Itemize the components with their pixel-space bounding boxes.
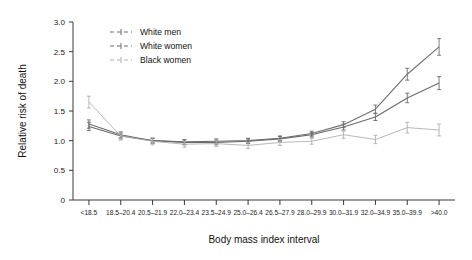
x-tick-label: 25.0–26.4 xyxy=(233,209,263,216)
line-chart-canvas: 00.51.01.52.02.53.0 Relative risk of dea… xyxy=(0,0,472,260)
y-tick-label: 1.5 xyxy=(54,107,66,116)
legend-label: White men xyxy=(140,27,181,37)
y-axis-ticks xyxy=(69,22,73,200)
y-tick-label: 0.5 xyxy=(54,166,66,175)
y-tick-label: 3.0 xyxy=(54,18,66,27)
legend-label: Black women xyxy=(140,55,191,65)
chart-legend: White menWhite womenBlack women xyxy=(110,27,192,65)
legend-item: Black women xyxy=(110,55,191,65)
x-axis-ticks xyxy=(89,200,439,205)
x-tick-label: 22.0–23.4 xyxy=(170,209,200,216)
chart-figure: 00.51.01.52.02.53.0 Relative risk of dea… xyxy=(0,0,472,260)
x-tick-label: 30.0–31.9 xyxy=(329,209,359,216)
legend-label: White women xyxy=(140,41,192,51)
x-tick-label: 28.0–29.9 xyxy=(297,209,327,216)
x-axis-title: Body mass index interval xyxy=(208,234,319,245)
x-tick-label: 26.5–27.9 xyxy=(265,209,295,216)
legend-item: White women xyxy=(110,41,192,51)
y-axis: 00.51.01.52.02.53.0 Relative risk of dea… xyxy=(17,18,73,205)
y-axis-tick-labels: 00.51.01.52.02.53.0 xyxy=(54,18,66,205)
x-axis-tick-labels: <18.518.5–20.420.5–21.922.0–23.423.5–24.… xyxy=(81,209,448,216)
series-line xyxy=(89,83,439,142)
x-tick-label: 35.0–39.9 xyxy=(393,209,423,216)
y-axis-title: Relative risk of death xyxy=(17,64,28,157)
legend-item: White men xyxy=(110,27,181,37)
y-tick-label: 0 xyxy=(60,196,65,205)
x-tick-label: 18.5–20.4 xyxy=(106,209,136,216)
x-tick-label: 20.5–21.9 xyxy=(138,209,168,216)
y-tick-label: 2.5 xyxy=(54,48,66,57)
x-tick-label: >40.0 xyxy=(431,209,448,216)
x-axis: <18.518.5–20.420.5–21.922.0–23.423.5–24.… xyxy=(73,200,455,245)
y-tick-label: 1.0 xyxy=(54,137,66,146)
x-tick-label: 32.0–34.9 xyxy=(361,209,391,216)
x-tick-label: <18.5 xyxy=(81,209,98,216)
x-tick-label: 23.5–24.9 xyxy=(202,209,232,216)
y-tick-label: 2.0 xyxy=(54,77,66,86)
